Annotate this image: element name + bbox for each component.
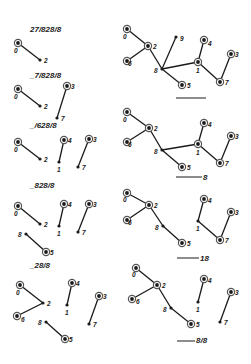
node-dot-icon: [57, 224, 60, 227]
node-label: 2: [43, 103, 48, 110]
node-label: 4: [67, 137, 72, 144]
node-label: 0: [132, 271, 136, 278]
node-dot-icon: [16, 87, 20, 91]
node-0: 0: [14, 138, 22, 153]
node-7: 7: [76, 164, 86, 171]
node-dot-icon: [15, 314, 19, 318]
node-label: 4: [75, 280, 80, 287]
edge-6-2: [17, 303, 43, 316]
node-label: 7: [61, 115, 65, 122]
node-dot-icon: [218, 238, 222, 242]
node-label: 1: [57, 166, 61, 173]
edge-1-7: [198, 144, 220, 163]
node-label: 2: [153, 125, 158, 132]
node-dot-icon: [229, 290, 233, 294]
node-label: 3: [235, 51, 239, 58]
node-dot-icon: [62, 202, 66, 206]
edge-3-7: [78, 139, 89, 167]
node-0: 0: [14, 202, 22, 217]
node-label: 2: [43, 221, 48, 228]
node-2: 2: [38, 156, 48, 163]
node-label: 8: [18, 231, 22, 238]
node-3: 3: [227, 208, 239, 216]
node-dot-icon: [180, 241, 184, 245]
node-4: 4: [200, 275, 212, 284]
node-dot-icon: [38, 58, 41, 61]
node-7: 7: [216, 159, 229, 167]
node-label: 7: [82, 164, 86, 171]
node-dot-icon: [65, 303, 68, 306]
node-dot-icon: [38, 157, 41, 160]
node-2: 2: [153, 281, 166, 289]
node-label: 4: [67, 201, 72, 208]
node-label: 1: [196, 149, 200, 156]
node-7: 7: [76, 229, 86, 236]
node-3: 3: [227, 288, 239, 296]
node-7: 7: [216, 78, 229, 86]
node-0: 0: [123, 108, 131, 123]
node-label: 4: [207, 121, 212, 128]
node-label: 3: [103, 293, 107, 300]
node-5: 5: [178, 163, 191, 171]
node-dot-icon: [196, 142, 200, 146]
node-5: 5: [42, 248, 54, 256]
node-label: 8: [38, 319, 42, 326]
edge-7-3: [220, 212, 231, 240]
node-dot-icon: [146, 44, 150, 48]
node-label: 6: [136, 298, 140, 305]
node-dot-icon: [202, 197, 206, 201]
node-2: 2: [41, 300, 51, 307]
node-label: 2: [43, 156, 48, 163]
node-7: 7: [55, 115, 65, 122]
node-label: 3: [235, 289, 239, 296]
node-label: 0: [16, 289, 20, 296]
node-5: 5: [61, 335, 73, 343]
node-label: 3: [93, 201, 97, 208]
node-label: 2: [153, 202, 158, 209]
node-0: 0: [16, 281, 24, 296]
node-dot-icon: [202, 38, 206, 42]
node-3: 3: [85, 200, 97, 208]
node-4: 4: [200, 195, 212, 204]
node-dot-icon: [16, 204, 20, 208]
node-8: 8: [154, 67, 164, 74]
node-label: 0: [14, 93, 18, 100]
node-label: 1: [65, 309, 69, 316]
node-label: 2: [46, 300, 51, 307]
node-label: 7: [82, 229, 86, 236]
node-dot-icon: [229, 134, 233, 138]
node-1: 1: [194, 140, 201, 156]
node-5: 5: [187, 320, 200, 328]
node-dot-icon: [76, 165, 79, 168]
node-dot-icon: [87, 322, 90, 325]
node-0: 0: [132, 264, 140, 278]
node-label: 5: [196, 321, 200, 328]
node-3: 3: [85, 135, 97, 143]
node-label: 2: [152, 43, 157, 50]
node-label: 0: [14, 47, 18, 54]
node-dot-icon: [63, 337, 67, 341]
node-dot-icon: [16, 41, 20, 45]
node-label: 5: [187, 164, 191, 171]
edge-8-1: [162, 144, 198, 150]
node-8: 8: [163, 306, 173, 313]
node-dot-icon: [125, 191, 129, 195]
node-label: 3: [235, 133, 239, 140]
node-dot-icon: [147, 126, 151, 130]
node-0: 0: [123, 25, 131, 40]
node-label: 6: [128, 219, 132, 226]
node-0: 0: [123, 189, 131, 203]
panel-l4: 02413785_828/8: [14, 181, 97, 256]
node-3: 3: [227, 50, 239, 58]
edge-1-7: [198, 62, 220, 82]
node-3: 3: [227, 132, 239, 140]
node-label: 4: [207, 40, 212, 47]
node-dot-icon: [218, 80, 222, 84]
node-dot-icon: [16, 140, 20, 144]
node-label: 5: [187, 82, 191, 89]
node-7: 7: [218, 319, 228, 326]
node-dot-icon: [62, 138, 66, 142]
node-dot-icon: [169, 306, 172, 309]
node-dot-icon: [24, 232, 27, 235]
panel-r4: 0268541378/8: [128, 264, 239, 345]
